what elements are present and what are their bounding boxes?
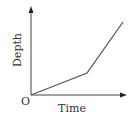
data-line	[31, 22, 123, 95]
y-axis-arrow-icon	[29, 6, 34, 13]
x-axis-arrow-icon	[120, 93, 127, 98]
y-axis-label: Depth	[11, 33, 24, 67]
depth-time-graph: O Time Depth	[0, 0, 128, 117]
x-axis-label: Time	[58, 102, 86, 115]
origin-label: O	[21, 95, 30, 108]
